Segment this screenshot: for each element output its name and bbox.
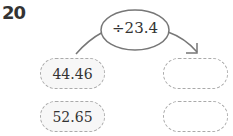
input-box-2: 52.65 <box>40 101 105 132</box>
answer-box-1[interactable] <box>163 58 228 89</box>
input-box-1: 44.46 <box>40 58 105 89</box>
operation-label: ÷23.4 <box>100 8 170 48</box>
answer-box-2[interactable] <box>163 101 228 132</box>
